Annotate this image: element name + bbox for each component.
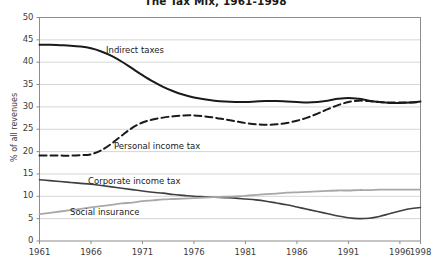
series-line-personal-income-tax — [40, 101, 421, 156]
x-tick-label: 1986 — [277, 247, 317, 257]
y-tick-label: 50 — [6, 12, 34, 22]
series-annotation: Personal income tax — [114, 141, 200, 151]
series-line-indirect-taxes — [40, 45, 421, 103]
y-tick-label: 35 — [6, 79, 34, 89]
x-tick-label: 1971 — [122, 247, 162, 257]
y-tick-label: 10 — [6, 190, 34, 200]
series-annotation: Social insurance — [70, 207, 139, 217]
y-tick-label: 45 — [6, 34, 34, 44]
y-tick-label: 20 — [6, 146, 34, 156]
x-tick-label: 1961 — [20, 247, 60, 257]
y-tick-label: 0 — [6, 235, 34, 245]
x-tick-label: 1991 — [328, 247, 368, 257]
x-tick-label: 1976 — [174, 247, 214, 257]
y-tick-label: 25 — [6, 123, 34, 133]
y-tick-label: 40 — [6, 56, 34, 66]
y-tick-label: 30 — [6, 101, 34, 111]
series-lines — [40, 45, 421, 219]
y-tick-label: 15 — [6, 168, 34, 178]
series-annotation: Indirect taxes — [106, 45, 164, 55]
x-tick-label: 1998 — [401, 247, 436, 257]
x-tick-label: 1981 — [225, 247, 265, 257]
x-tick-label: 1966 — [71, 247, 111, 257]
y-tick-label: 5 — [6, 213, 34, 223]
series-annotation: Corporate income tax — [88, 176, 181, 186]
